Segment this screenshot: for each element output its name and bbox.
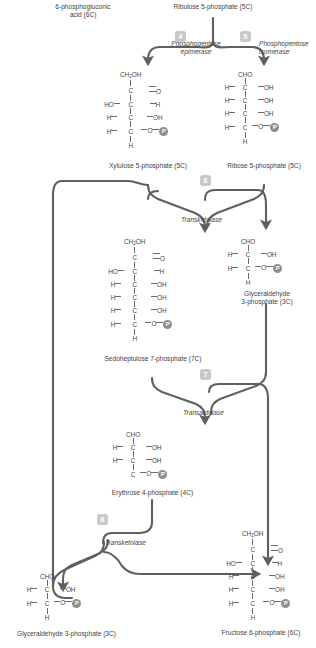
step-badge-5: 5 [240, 31, 251, 42]
label-line-1: Glyceraldehyde [221, 290, 313, 298]
enzyme-label-transketolase-6: Transketolase [181, 216, 222, 224]
enzyme-line-1: Phosphopentose [259, 40, 316, 48]
label-line-1: 6-phosphogluconic [33, 3, 133, 11]
phosphate-icon: P [270, 123, 279, 132]
molecule-fructose-6-phosphate: CH2OH CO HOCH HCOH HCOH HC OP H [226, 530, 290, 621]
label-ribulose-5-phosphate: Ribulose 5-phosphate (5C) [148, 3, 278, 11]
molecule-ribose-5-phosphate: CHO HCOH HCOH HCOH HC OP H [222, 71, 279, 145]
label-xylulose-5-phosphate: Xylulose 5-phosphate (5C) [92, 162, 204, 170]
label-erythrose-4-phosphate: Erythrose 4-phosphate (4C) [95, 489, 210, 497]
pathway-diagram: 6-phosphogluconic acid (6C) Ribulose 5-p… [0, 0, 316, 648]
molecule-erythrose-4-phosphate: CHO HCOH HCOH C OP [110, 431, 167, 479]
enzyme-line-2: epimerase [165, 48, 227, 56]
phosphate-icon: P [273, 264, 282, 273]
arrow-step7-right-in [211, 304, 266, 414]
molecule-sedoheptulose-7-phosphate: CH2OH CO HOCH HCOH HCOH HCOH HC OP H [108, 238, 172, 342]
phosphate-icon: P [159, 127, 168, 136]
phosphate-icon: P [72, 599, 81, 608]
molecule-glyceraldehyde-3-phosphate-right: CHO HCOH HC OP H [225, 238, 282, 286]
molecule-xylulose-5-phosphate: CH2OH CO HOCH HCOH HC OP H [104, 71, 168, 149]
step-badge-8: 8 [97, 514, 108, 525]
label-line-2: acid (6C) [33, 11, 133, 19]
step-badge-6: 6 [200, 175, 211, 186]
arrow-step6-joint [148, 191, 158, 199]
label-fructose-6-phosphate: Fructose 6-phosphate (6C) [206, 629, 316, 637]
label-6-phosphogluconic-acid: 6-phosphogluconic acid (6C) [33, 3, 133, 20]
step-badge-4: 4 [175, 31, 186, 42]
label-glyceraldehyde-3-phosphate-bottom: Glyceraldehyde 3-phosphate (3C) [0, 630, 134, 638]
label-sedoheptulose-7-phosphate: Sedoheptulose 7-phosphate (7C) [88, 355, 218, 363]
enzyme-label-transaldolase-7: Transaldolase [183, 409, 224, 417]
molecule-glyceraldehyde-3-phosphate-bottom: CHO HCOH HC OP H [24, 573, 81, 621]
step-badge-7: 7 [200, 369, 211, 380]
enzyme-label-phosphopentose-isomerase: Phosphopentose isomerase [259, 40, 316, 57]
arrow-step8-right-in [112, 500, 152, 533]
phosphate-icon: P [163, 320, 172, 329]
phosphate-icon: P [158, 470, 167, 479]
label-ribose-5-phosphate: Ribose 5-phosphate (5C) [209, 162, 316, 170]
enzyme-label-transketolase-8: Transketolase [105, 539, 146, 547]
label-line-2: 3-phosphate (3C) [221, 298, 313, 306]
enzyme-line-2: isomerase [259, 48, 316, 56]
enzyme-line-1: Phosphopentose [165, 40, 227, 48]
label-glyceraldehyde-3-phosphate-right: Glyceraldehyde 3-phosphate (3C) [221, 290, 313, 307]
enzyme-label-phosphopentose-epimerase: Phosphopentose epimerase [165, 40, 227, 57]
phosphate-icon: P [281, 599, 290, 608]
